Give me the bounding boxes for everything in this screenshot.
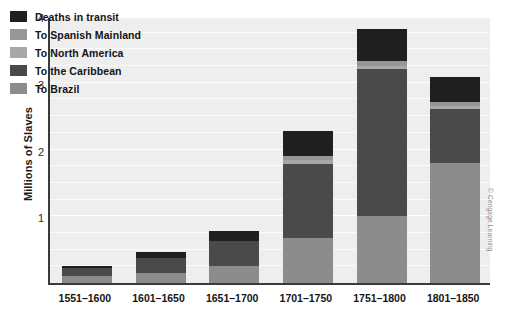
bar-segment: [136, 252, 186, 259]
legend-label: Deaths in transit: [35, 11, 119, 23]
x-axis-tick-label: 1801–1850: [416, 292, 490, 304]
bar-1551-1600[interactable]: [62, 266, 112, 283]
gridline-minor: [50, 232, 490, 233]
legend-item: To North America: [10, 44, 200, 61]
bar-1601-1650[interactable]: [136, 252, 186, 283]
legend-swatch-icon: [10, 83, 27, 94]
chart-legend: Deaths in transitTo Spanish MainlandTo N…: [10, 8, 200, 98]
bar-1651-1700[interactable]: [209, 231, 259, 283]
legend-label: To the Caribbean: [35, 65, 122, 77]
x-axis-tick-label: 1601–1650: [122, 292, 196, 304]
gridline-minor: [50, 182, 490, 183]
bar-segment: [209, 241, 259, 266]
copyright-credit: © Cengage Learning: [487, 188, 494, 252]
legend-item: Deaths in transit: [10, 8, 200, 25]
x-axis-tick-label: 1651–1700: [195, 292, 269, 304]
bar-segment: [62, 268, 112, 276]
x-axis-tick-label: 1551–1600: [48, 292, 122, 304]
x-axis-tick-label: 1751–1800: [343, 292, 417, 304]
bar-segment: [209, 231, 259, 241]
legend-swatch-icon: [10, 47, 27, 58]
legend-item: To Brazil: [10, 80, 200, 97]
legend-item: To the Caribbean: [10, 62, 200, 79]
gridline-minor: [50, 249, 490, 250]
legend-label: To Brazil: [35, 83, 79, 95]
gridline-major: [50, 215, 490, 216]
gridline-major: [50, 149, 490, 150]
bar-segment: [136, 273, 186, 283]
legend-label: To North America: [35, 47, 124, 59]
bar-1801-1850[interactable]: [430, 77, 480, 283]
gridline-minor: [50, 98, 490, 99]
gridline-minor: [50, 165, 490, 166]
bar-segment: [357, 29, 407, 60]
bar-segment: [357, 216, 407, 283]
bar-segment: [430, 109, 480, 162]
gridline-minor: [50, 132, 490, 133]
gridline-minor: [50, 199, 490, 200]
bar-1701-1750[interactable]: [283, 131, 333, 283]
bar-segment: [357, 69, 407, 216]
bar-segment: [283, 131, 333, 156]
legend-swatch-icon: [10, 11, 27, 22]
legend-label: To Spanish Mainland: [35, 29, 141, 41]
x-axis-tick-label: 1701–1750: [269, 292, 343, 304]
legend-swatch-icon: [10, 29, 27, 40]
bar-segment: [430, 77, 480, 102]
bar-segment: [430, 163, 480, 283]
bar-segment: [283, 164, 333, 237]
bar-segment: [209, 266, 259, 283]
chart-figure: Millions of Slaves 1234 1551–16001601–16…: [0, 0, 530, 321]
gridline-minor: [50, 115, 490, 116]
bar-segment: [136, 258, 186, 273]
bar-1751-1800[interactable]: [357, 29, 407, 283]
legend-item: To Spanish Mainland: [10, 26, 200, 43]
y-axis-tick-label: 2: [4, 146, 44, 158]
y-axis-tick-label: 1: [4, 212, 44, 224]
gridline-minor: [50, 265, 490, 266]
legend-swatch-icon: [10, 65, 27, 76]
bar-segment: [283, 238, 333, 283]
bar-segment: [62, 276, 112, 283]
